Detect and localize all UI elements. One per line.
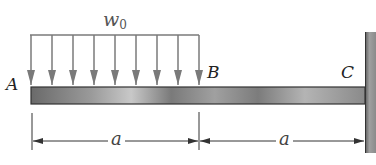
- dimension-lines: [32, 112, 364, 150]
- diagram-canvas: [0, 0, 376, 165]
- beam-diagram: w0 A B C a a: [0, 0, 376, 165]
- beam: [31, 87, 365, 104]
- dimension-label-bc: a: [276, 130, 293, 148]
- point-label-c: C: [341, 64, 354, 81]
- point-label-b: B: [207, 64, 220, 81]
- point-label-a: A: [6, 76, 18, 93]
- dimension-label-ab: a: [108, 130, 125, 148]
- load-label: w0: [103, 10, 127, 31]
- load-arrows: [27, 35, 203, 85]
- fixed-wall-support: [365, 32, 376, 153]
- distributed-load: [27, 35, 203, 85]
